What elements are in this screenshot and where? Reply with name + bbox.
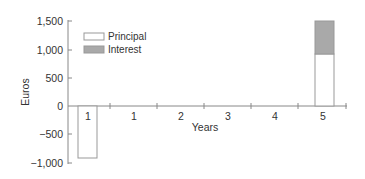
legend-label-principal: Principal [108,31,146,42]
legend-swatch-principal [84,33,104,40]
legend-swatch-interest [84,46,104,53]
legend: Principal Interest [84,31,146,55]
legend-label-interest: Interest [108,44,142,55]
y-tick-label: 500 [45,72,63,84]
x-tick-label: 4 [272,110,278,122]
x-tick-label: 3 [225,110,231,122]
y-tick-label: 1,000 [37,44,63,56]
x-tick-label: 1 [131,110,137,122]
y-tick-label: 1,500 [37,15,63,27]
bar-year5-principal [315,54,334,106]
y-ticks [68,21,72,163]
y-tick-labels: 1,500 1,000 500 0 −500 −1,000 [31,15,64,169]
investment-chart: 1,500 1,000 500 0 −500 −1,000 Euros 1 1 … [0,0,365,179]
x-tick-label: 5 [320,110,326,122]
y-tick-label: −500 [39,128,63,140]
x-tick-label: 1 [85,110,91,122]
bar-year5-interest [315,21,334,54]
y-tick-label: −1,000 [31,157,64,169]
y-tick-label: 0 [57,100,63,112]
x-axis-title: Years [192,121,218,133]
y-axis-title: Euros [19,78,31,105]
x-tick-label: 2 [178,110,184,122]
